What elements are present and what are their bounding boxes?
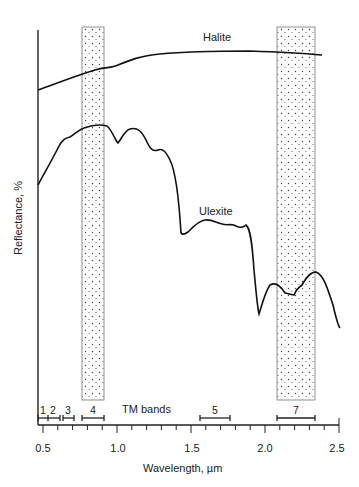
- halite-label: Halite: [203, 31, 231, 43]
- shaded-band-4: [82, 27, 104, 400]
- x-axis-title: Wavelength, µm: [143, 462, 222, 474]
- x-ticks: [43, 418, 339, 433]
- x-tick-label: 1.0: [110, 442, 125, 454]
- tm-band-bars: [38, 415, 315, 421]
- band-label-3: 3: [65, 404, 71, 416]
- x-tick-label: 0.5: [35, 442, 50, 454]
- band-label-2: 2: [50, 404, 56, 416]
- x-tick-label: 2.0: [257, 442, 272, 454]
- shaded-band-7: [277, 27, 315, 400]
- x-tick-label: 2.5: [329, 442, 344, 454]
- tm-bands-label: TM bands: [122, 403, 171, 415]
- x-tick-label: 1.5: [184, 442, 199, 454]
- band-label-1: 1: [40, 404, 46, 416]
- ulexite-label: Ulexite: [199, 205, 233, 217]
- band-label-4: 4: [90, 404, 96, 416]
- band-label-7: 7: [293, 404, 299, 416]
- band-label-5: 5: [212, 404, 218, 416]
- y-axis-title: Reflectance, %: [12, 178, 24, 258]
